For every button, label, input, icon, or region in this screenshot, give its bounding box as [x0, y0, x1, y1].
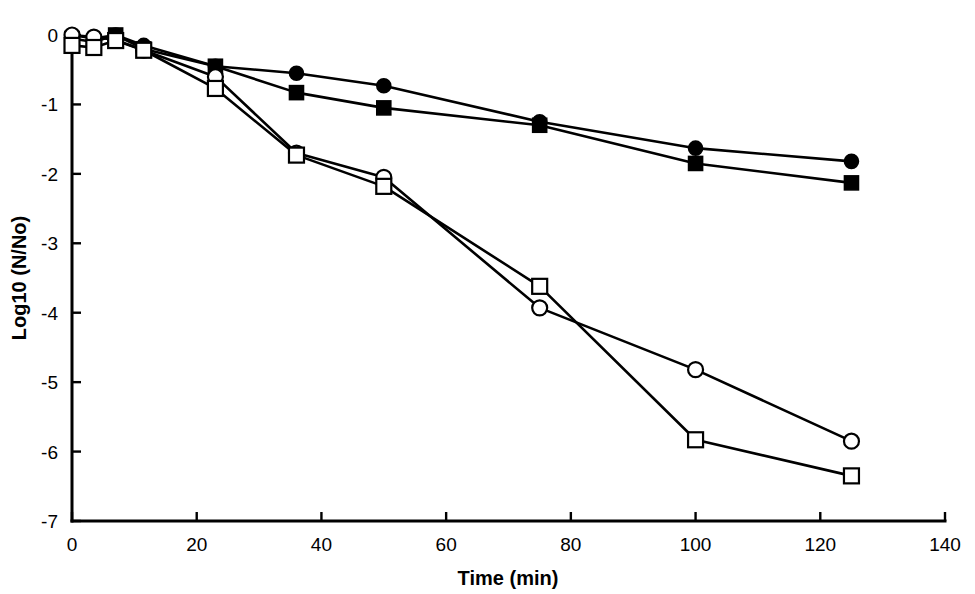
- y-tick-label: -7: [41, 511, 58, 532]
- markers-open-square: [65, 33, 859, 483]
- axes: [72, 35, 945, 521]
- marker-open-square: [688, 432, 703, 447]
- y-axis-title: Log10 (N/No): [8, 216, 30, 340]
- y-tick-label: 0: [47, 25, 58, 46]
- series-filled-circle: [72, 35, 851, 161]
- x-tick-label: 120: [804, 534, 836, 555]
- series-open-circle: [72, 35, 851, 441]
- marker-filled-square: [377, 101, 391, 115]
- x-tick-label: 100: [680, 534, 712, 555]
- marker-open-square: [289, 148, 304, 163]
- marker-filled-square: [844, 176, 858, 190]
- series-open-square: [72, 41, 851, 476]
- marker-filled-square: [689, 156, 703, 170]
- marker-open-square: [532, 279, 547, 294]
- marker-filled-circle: [844, 154, 858, 168]
- y-tick-label: -2: [41, 164, 58, 185]
- marker-open-square: [844, 468, 859, 483]
- marker-open-square: [108, 33, 123, 48]
- marker-filled-square: [533, 118, 547, 132]
- tick-labels: 0204060801001201400-1-2-3-4-5-6-7: [41, 25, 961, 555]
- marker-open-square: [208, 81, 223, 96]
- marker-open-square: [376, 179, 391, 194]
- y-tick-label: -6: [41, 442, 58, 463]
- markers-open-circle: [65, 28, 859, 449]
- series-polyline-filled-square: [72, 35, 851, 183]
- series-polyline-filled-circle: [72, 35, 851, 161]
- marker-open-square: [86, 40, 101, 55]
- marker-open-square: [65, 38, 80, 53]
- marker-open-circle: [844, 434, 859, 449]
- y-tick-label: -3: [41, 233, 58, 254]
- series-filled-square: [72, 35, 851, 183]
- y-tick-label: -1: [41, 94, 58, 115]
- marker-open-square: [136, 43, 151, 58]
- marker-filled-circle: [377, 79, 391, 93]
- marker-open-circle: [532, 300, 547, 315]
- y-tick-label: -5: [41, 372, 58, 393]
- series-polyline-open-circle: [72, 35, 851, 441]
- x-axis-title: Time (min): [458, 567, 559, 589]
- marker-filled-circle: [689, 141, 703, 155]
- series-polyline-open-square: [72, 41, 851, 476]
- marker-filled-square: [289, 86, 303, 100]
- y-tick-label: -4: [41, 303, 58, 324]
- marker-filled-circle: [289, 66, 303, 80]
- x-tick-label: 140: [929, 534, 961, 555]
- markers-filled-circle: [65, 28, 858, 168]
- x-tick-label: 60: [436, 534, 457, 555]
- data-series: [65, 28, 859, 484]
- x-tick-label: 40: [311, 534, 332, 555]
- line-chart-plot: 0204060801001201400-1-2-3-4-5-6-7 Time (…: [0, 0, 975, 594]
- marker-open-circle: [688, 362, 703, 377]
- x-tick-label: 20: [186, 534, 207, 555]
- tick-marks: [72, 35, 945, 521]
- x-tick-label: 0: [67, 534, 78, 555]
- chart-figure: 0204060801001201400-1-2-3-4-5-6-7 Time (…: [0, 0, 975, 594]
- x-tick-label: 80: [560, 534, 581, 555]
- markers-filled-square: [65, 28, 858, 190]
